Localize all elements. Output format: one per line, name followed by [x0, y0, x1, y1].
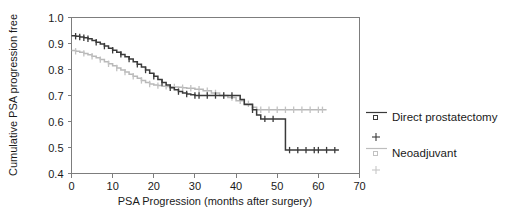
censor-marks-neoadjuvant — [76, 48, 323, 113]
legend-square-direct-prostatectomy — [374, 116, 378, 120]
x-tick-label: 70 — [353, 180, 365, 192]
curve-neoadjuvant — [72, 51, 327, 110]
legend-label-neoadjuvant[interactable]: Neoadjuvant — [392, 147, 457, 159]
x-axis-ticks: 010203040506070 — [68, 174, 365, 192]
y-tick-label: 0.7 — [48, 90, 63, 102]
x-tick-label: 20 — [148, 180, 160, 192]
x-tick-label: 50 — [271, 180, 283, 192]
y-tick-label: 0.9 — [48, 38, 63, 50]
y-tick-label: 0.4 — [48, 168, 63, 180]
y-tick-label: 1.0 — [48, 12, 63, 24]
y-axis-ticks: 1.00.90.80.70.60.50.4 — [48, 12, 71, 180]
kaplan-meier-figure: 1.00.90.80.70.60.50.4 010203040506070 PS… — [0, 0, 507, 222]
x-tick-label: 60 — [312, 180, 324, 192]
x-tick-label: 30 — [189, 180, 201, 192]
y-tick-label: 0.6 — [48, 116, 63, 128]
y-axis-title: Cumulative PSA progression free — [7, 14, 19, 176]
x-tick-label: 0 — [68, 180, 74, 192]
series-group — [72, 33, 339, 153]
censor-marks-direct-prostatectomy — [76, 33, 335, 153]
x-tick-label: 40 — [230, 180, 242, 192]
curve-direct-prostatectomy — [72, 36, 339, 150]
y-tick-label: 0.5 — [48, 142, 63, 154]
legend: Direct prostatectomy Neoadjuvant — [366, 111, 498, 174]
chart-canvas: 1.00.90.80.70.60.50.4 010203040506070 PS… — [0, 0, 507, 222]
legend-square-neoadjuvant — [374, 152, 378, 156]
x-tick-label: 10 — [107, 180, 119, 192]
legend-censor-dark — [372, 133, 380, 141]
legend-censor-light — [372, 166, 380, 174]
legend-label-direct-prostatectomy[interactable]: Direct prostatectomy — [392, 111, 498, 123]
x-axis-title: PSA Progression (months after surgery) — [118, 195, 312, 207]
y-tick-label: 0.8 — [48, 64, 63, 76]
